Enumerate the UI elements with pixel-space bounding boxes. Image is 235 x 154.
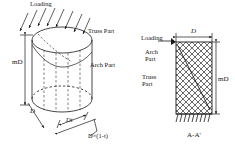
height-dimension-3d — [20, 35, 33, 105]
segment-bottom-label-3d: D×(1-t) — [88, 133, 108, 140]
cylinder-body — [32, 27, 92, 112]
truss-part-label-line2: Part — [142, 81, 156, 88]
arch-part-label-line2: Part — [145, 56, 158, 63]
truss-part-label-3d: Truss Part — [88, 28, 114, 35]
loading-label-section: Loading — [141, 35, 163, 42]
height-label-section: mD — [218, 76, 229, 83]
cylinder-generatrix-lines — [44, 50, 80, 112]
segment-top-label-3d: Dt — [66, 117, 73, 124]
section-caption: A-A' — [187, 132, 201, 139]
loading-arrows-3d — [20, 8, 90, 34]
loading-label-3d: Loading — [30, 1, 52, 8]
engineering-figure: Loading Truss Part Arch Part mD D Dt D×(… — [0, 0, 235, 154]
arch-part-label-section: Arch Part — [145, 49, 158, 63]
truss-part-label-section: Truss Part — [142, 74, 156, 88]
diameter-label-3d: D — [30, 108, 35, 115]
height-label-3d: mD — [12, 59, 23, 66]
arch-part-label-3d: Arch Part — [90, 62, 115, 69]
arch-truss-boundary-curve — [32, 34, 92, 67]
width-label-section: D — [191, 28, 196, 35]
section-support-hatching — [176, 114, 212, 122]
